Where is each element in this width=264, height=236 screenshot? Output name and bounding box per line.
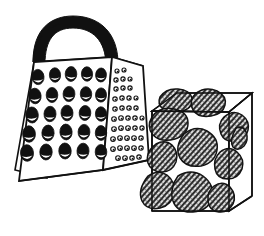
grater-rasp-38 <box>130 156 134 160</box>
grater-rasp-24 <box>133 126 137 130</box>
grater-rasp-36 <box>116 156 121 161</box>
grater-rasp-7 <box>128 86 132 90</box>
grater-rasp-26 <box>111 137 116 142</box>
grater-rasp-17 <box>119 116 124 121</box>
grater-rasp-10 <box>127 96 131 100</box>
grater-hole-7 <box>63 86 76 102</box>
hole-center <box>178 129 218 167</box>
grater-rasp-32 <box>118 146 123 151</box>
grater-rasp-29 <box>132 136 137 141</box>
grater-rasp-31 <box>111 147 116 152</box>
grater-rasp-18 <box>126 116 130 120</box>
grater-hole-21 <box>40 144 53 160</box>
grater-rasp-35 <box>139 146 143 150</box>
grater-hole-4 <box>95 68 107 83</box>
grater-hole-9 <box>95 88 106 103</box>
grater-rasp-2 <box>114 78 118 82</box>
illustration-canvas: Box grater and block of holey cheese <box>0 0 264 236</box>
grater-rasp-19 <box>133 116 137 120</box>
grater-rasp-0 <box>115 69 119 73</box>
grater-hole-12 <box>61 105 74 121</box>
grater-rasp-30 <box>139 136 143 140</box>
grater-hole-24 <box>95 144 107 159</box>
grater-hole-22 <box>58 143 71 160</box>
grater-rasp-27 <box>118 136 123 141</box>
grater-rasp-25 <box>140 126 144 130</box>
grater-rasp-5 <box>114 87 118 91</box>
grater-hole-14 <box>95 107 107 122</box>
grater-rasp-3 <box>121 77 125 81</box>
grater-side-face[interactable] <box>103 57 149 170</box>
grater-hole-19 <box>95 125 107 140</box>
grater-rasp-4 <box>128 77 132 81</box>
grater-rasp-37 <box>123 156 128 161</box>
grater-hole-3 <box>81 67 93 82</box>
grater-rasp-16 <box>112 117 117 122</box>
grater-hole-1 <box>49 68 61 83</box>
cheese-block[interactable] <box>140 89 252 212</box>
grater-hole-16 <box>41 125 54 141</box>
grater-rasp-8 <box>113 97 117 101</box>
grater-rasp-6 <box>121 86 125 90</box>
grater-rasp-15 <box>134 106 138 110</box>
grater-hole-15 <box>22 125 36 142</box>
hole-bottom-right <box>208 183 235 212</box>
grater-rasp-13 <box>120 106 124 110</box>
grater-rasp-20 <box>140 116 144 120</box>
grater-rasp-39 <box>137 155 141 159</box>
hole-bottom-center <box>172 172 213 212</box>
grater-hole-18 <box>78 124 90 140</box>
grater-rasp-21 <box>112 127 117 132</box>
grater-rasp-28 <box>125 136 130 141</box>
grater-rasp-34 <box>132 146 137 151</box>
grater-rasp-1 <box>122 68 126 72</box>
grater-hole-6 <box>46 88 58 103</box>
illustration-svg: Box grater and block of holey cheese <box>0 0 264 236</box>
grater-rasp-9 <box>120 96 124 100</box>
grater-rasp-33 <box>125 146 130 151</box>
grater-hole-23 <box>77 143 90 159</box>
grater-hole-11 <box>44 106 57 122</box>
grater-rasp-22 <box>119 126 124 131</box>
grater-rasp-23 <box>126 126 131 131</box>
grater-rasp-12 <box>113 107 117 111</box>
grater-hole-2 <box>65 66 77 81</box>
grater-rasp-14 <box>127 106 131 110</box>
grater-rasp-11 <box>134 96 138 100</box>
grater-hole-8 <box>80 86 92 101</box>
